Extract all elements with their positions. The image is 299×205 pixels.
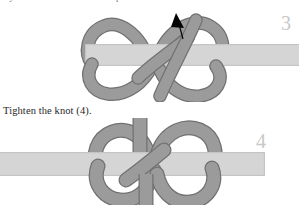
horizontal-flat-band [85,44,299,66]
top-cut-text: ary take the free bottom end up [2,0,121,2]
step-number-3: 3 [281,12,291,35]
scanned-page: ary take the free bottom end up [0,0,299,205]
step-number-4: 4 [256,130,266,153]
figure-caption: Tighten the knot (4). [3,105,92,116]
figure-knot-step-3 [0,6,299,102]
figure-knot-step-4 [0,118,299,205]
